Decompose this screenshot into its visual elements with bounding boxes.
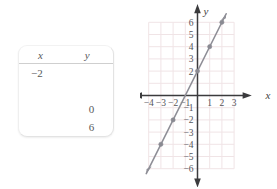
data-point	[208, 45, 212, 49]
cell-y	[59, 82, 113, 100]
axes	[140, 4, 252, 187]
y-axis-arrow-up	[194, 4, 201, 13]
data-point	[159, 142, 163, 146]
y-tick-label: −2	[183, 115, 193, 125]
x-axis-arrow-right	[243, 92, 252, 99]
table-row	[19, 82, 113, 100]
cell-y: 6	[59, 118, 113, 136]
y-tick-label: −4	[183, 140, 193, 150]
column-header-y: y	[59, 46, 113, 64]
x-tick-label: 1	[207, 98, 212, 108]
y-tick-label: −5	[183, 152, 193, 162]
x-tick-label: −3	[156, 98, 166, 108]
y-tick-label: 4	[189, 42, 194, 52]
table-header-row: x y	[19, 46, 113, 64]
y-tick-label: 5	[189, 30, 194, 40]
y-tick-label: 2	[189, 67, 194, 77]
column-header-x: x	[19, 46, 59, 64]
y-tick-label: −3	[183, 128, 193, 138]
y-tick-label: 3	[189, 54, 194, 64]
x-axis-arrow-left	[140, 92, 142, 99]
cell-x	[19, 100, 59, 118]
xy-value-table-card: x y −2 0 6	[18, 45, 114, 137]
x-tick-label: −4	[144, 98, 154, 108]
x-tick-label: 2	[220, 98, 225, 108]
cell-y: 0	[59, 100, 113, 118]
data-point	[220, 20, 224, 24]
table-row: −2	[19, 64, 113, 83]
y-axis-label: y	[203, 5, 209, 17]
table-row: 6	[19, 118, 113, 136]
x-axis-label: x	[265, 89, 271, 101]
cell-y	[59, 64, 113, 83]
table-body: −2 0 6	[19, 64, 113, 137]
y-axis-arrow-down	[194, 178, 201, 187]
y-tick-label: −6	[183, 164, 193, 174]
coordinate-plane-graph: −4−3−2−112365432−1−2−3−4−5−6 x y	[140, 2, 277, 187]
x-tick-label: −2	[168, 98, 178, 108]
table-head: x y	[19, 46, 113, 64]
y-tick-label: −1	[183, 103, 193, 113]
cell-x	[19, 118, 59, 136]
cell-x: −2	[19, 64, 59, 83]
xy-value-table: x y −2 0 6	[19, 46, 113, 136]
data-point	[171, 118, 175, 122]
cell-x	[19, 82, 59, 100]
y-tick-label: 6	[189, 18, 194, 28]
data-point	[195, 69, 199, 73]
graph-canvas: −4−3−2−112365432−1−2−3−4−5−6 x y	[140, 2, 277, 187]
table-row: 0	[19, 100, 113, 118]
x-tick-label: 3	[232, 98, 237, 108]
